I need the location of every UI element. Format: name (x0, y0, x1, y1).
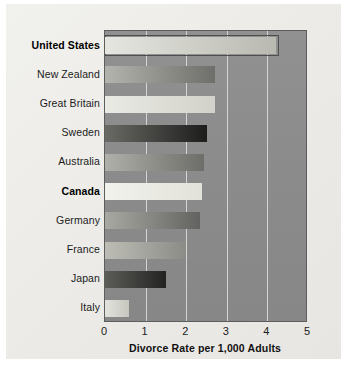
x-tick-1: 1 (135, 325, 155, 337)
category-label-italy: Italy (8, 301, 100, 313)
x-axis-title: Divorce Rate per 1,000 Adults (60, 342, 347, 354)
bar-australia (105, 154, 204, 171)
bar-japan (105, 271, 166, 288)
category-label-united-states: United States (8, 39, 100, 51)
x-tick-2: 2 (175, 325, 195, 337)
divorce-rate-bar-chart: United StatesNew ZealandGreat BritainSwe… (0, 0, 347, 377)
category-label-france: France (8, 243, 100, 255)
gridline-3 (227, 31, 228, 321)
x-tick-5: 5 (297, 325, 317, 337)
gridline-4 (267, 31, 268, 321)
bar-germany (105, 212, 200, 229)
bar-france (105, 242, 186, 259)
bar-new-zealand (105, 66, 215, 83)
plot-area (104, 30, 307, 322)
x-tick-3: 3 (216, 325, 236, 337)
category-label-great-britain: Great Britain (8, 97, 100, 109)
bar-italy (105, 300, 129, 317)
category-label-australia: Australia (8, 155, 100, 167)
bar-canada (105, 183, 202, 200)
category-label-canada: Canada (8, 185, 100, 197)
bar-united-states (105, 37, 276, 54)
bar-great-britain (105, 96, 215, 113)
category-label-germany: Germany (8, 214, 100, 226)
x-tick-0: 0 (94, 325, 114, 337)
x-axis-tick-labels: 012345 (104, 325, 307, 341)
bar-sweden (105, 125, 207, 142)
category-label-japan: Japan (8, 272, 100, 284)
category-axis-labels: United StatesNew ZealandGreat BritainSwe… (10, 30, 100, 322)
x-tick-4: 4 (256, 325, 276, 337)
category-label-sweden: Sweden (8, 126, 100, 138)
category-label-new-zealand: New Zealand (8, 68, 100, 80)
